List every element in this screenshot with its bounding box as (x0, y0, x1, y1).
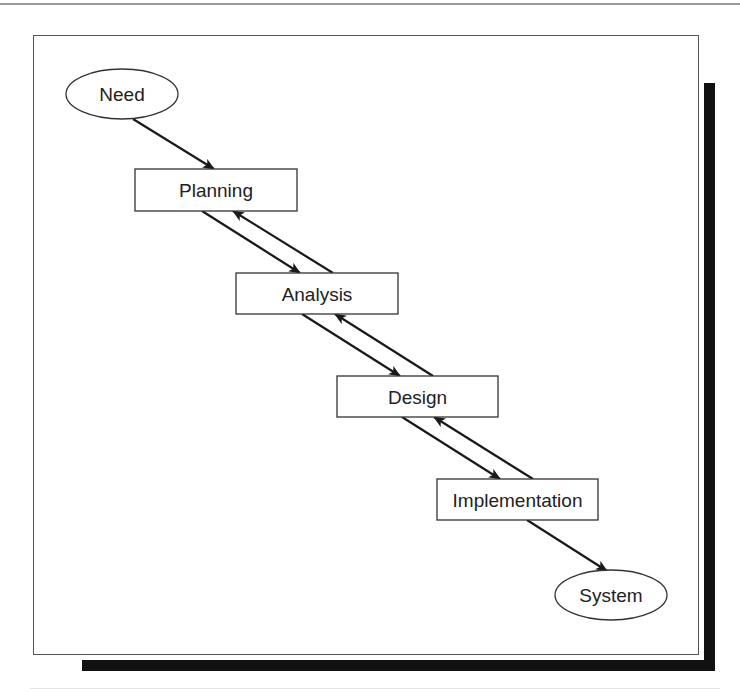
nodes: NeedPlanningAnalysisDesignImplementation… (66, 69, 667, 620)
node-planning: Planning (135, 169, 297, 211)
design-label: Design (388, 387, 447, 408)
node-need: Need (66, 69, 178, 119)
arrow-implementation-to-system (527, 520, 607, 571)
arrow-analysis-to-planning (233, 211, 333, 273)
analysis-label: Analysis (282, 284, 353, 305)
arrow-need-to-planning (133, 119, 214, 169)
node-design: Design (337, 376, 498, 417)
arrow-planning-to-analysis (202, 211, 300, 273)
node-system: System (555, 570, 667, 620)
system-label: System (579, 585, 642, 606)
waterfall-diagram: NeedPlanningAnalysisDesignImplementation… (0, 0, 740, 692)
node-analysis: Analysis (236, 273, 398, 314)
need-label: Need (99, 84, 144, 105)
node-implementation: Implementation (437, 479, 598, 520)
implementation-label: Implementation (453, 490, 583, 511)
planning-label: Planning (179, 180, 253, 201)
